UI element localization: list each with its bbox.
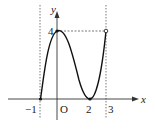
x-axis-arrow-icon [132,97,139,102]
function-curve [41,31,107,99]
x-axis-label: x [140,93,146,105]
point-neg1-0 [39,97,42,100]
origin-label: O [60,103,68,115]
x-tick-2: 2 [86,103,92,115]
y-axis-label: y [50,3,56,15]
function-graph: y x 4 −1 O 2 3 [0,0,155,134]
y-tick-4: 4 [48,25,54,37]
point-3-4-open [104,29,108,33]
point-2-0 [88,97,91,100]
x-tick-neg1: −1 [25,103,37,115]
x-tick-3: 3 [108,103,114,115]
point-0-4 [55,29,58,32]
